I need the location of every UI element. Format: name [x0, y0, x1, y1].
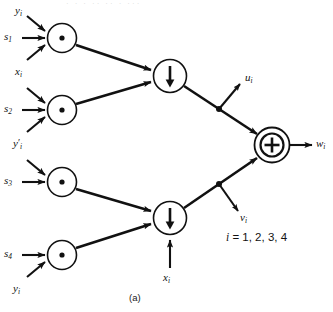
index-condition-note: i = 1, 2, 3, 4	[226, 232, 287, 244]
multiplier-s2	[48, 96, 77, 125]
input-arrows	[22, 16, 45, 277]
input-label-s3: s3	[4, 175, 12, 188]
multiplier-s3	[48, 168, 77, 197]
input-label-y-prime: y′i	[13, 138, 22, 151]
adder-lower	[154, 202, 187, 235]
input-label-s4: s4	[4, 248, 12, 261]
figure-canvas: · · · ·· ·· · ···	[0, 0, 333, 312]
stage-two-links	[184, 86, 257, 208]
tap-branch-arrows	[219, 84, 240, 211]
adder-upper	[154, 60, 187, 93]
output-label-w: wi	[316, 138, 325, 151]
input-label-y4: yi	[13, 283, 20, 296]
figure-caption: (a)	[129, 292, 141, 303]
input-label-x-bottom: xi	[163, 272, 170, 285]
stage-one-links	[76, 45, 151, 248]
output-label-u: ui	[245, 72, 253, 85]
multiplier-s1	[48, 24, 77, 53]
multiplier-s4	[48, 241, 77, 270]
output-label-v: vi	[240, 212, 247, 225]
signal-flow-diagram	[0, 0, 333, 312]
summing-node	[255, 128, 290, 163]
multiplier-nodes	[48, 24, 77, 270]
input-label-y1: yi	[15, 5, 22, 18]
adder-nodes	[154, 60, 187, 235]
input-label-s1: s1	[4, 31, 12, 44]
input-label-x-top: xi	[15, 66, 22, 79]
input-label-s2: s2	[4, 103, 12, 116]
